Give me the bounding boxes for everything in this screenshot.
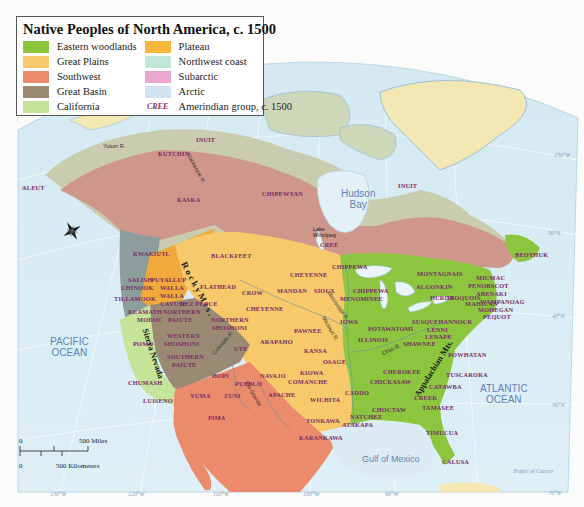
tribe-label: KWAKIUTL [133,250,170,257]
tribe-label: PUYALLUP [151,276,186,283]
tribe-label: CHEROKEE [383,368,421,375]
legend-item-northwest-coast: Northwest coast [145,55,292,68]
tribe-label: PUEBLO [235,380,262,387]
coordinate-label: Tropic of Cancer [513,468,554,474]
scale-miles-label: 500 Miles [79,437,107,445]
coordinate-label: 120°W [128,491,144,497]
tribe-label: NORTHERN [163,308,201,315]
tribe-label: WAMPANOAG [480,298,525,305]
tribe-label: WALLA [160,292,184,299]
tribe-label: POWHATAN [448,351,486,358]
coordinate-label: 40°N [552,313,564,319]
coordinate-label: 100°W [303,491,319,497]
tribe-label: CROW [242,289,263,296]
tribe-label: NATCHEZ [350,413,382,420]
tribe-label: KASKA [177,196,200,203]
tribe-label: KANSA [304,347,327,354]
tribe-label: INUIT [398,182,417,189]
tribe-label: WESTERN [167,332,200,339]
tribe-label: BEOTHUK [515,251,548,258]
tribe-label: PIMA [208,414,226,421]
tribe-label: SOUTHERN [167,353,204,360]
legend-swatch [23,71,49,83]
tribe-label: PAIUTE [172,361,197,368]
tribe-label: SHOSHONI [164,340,199,347]
legend-swatch [23,86,49,98]
legend-label: Arctic [179,86,205,97]
legend-swatch [145,71,171,83]
tribe-label: HOPI [212,372,229,379]
legend-label: Plateau [179,41,210,52]
legend-label: Great Basin [57,86,107,97]
tribe-label: ATAKAPA [342,421,373,428]
scale-zero-miles: 0 [19,437,23,445]
tribe-label: POTAWATOMI [368,325,413,332]
legend-label: Eastern woodlands [57,41,137,52]
legend-item-subarctic: Subarctic [145,70,292,83]
coordinate-label: 90°W [385,491,398,497]
tribe-label: CHIPPEWA [332,263,368,270]
tribe-label: CHOCTAW [372,406,406,413]
legend-item-southwest: Southwest [23,70,137,83]
tribe-label: CHUMASH [128,379,162,386]
scale-km-label: 500 Kilometers [56,462,99,470]
gulf-of-mexico-label: Gulf of Mexico [362,454,420,465]
coordinate-label: 110°W [213,491,229,497]
tribe-label: CHIPPEWA [353,287,389,294]
tribe-label: KLAMATH [128,308,162,315]
tribe-label: CHEYENNE [246,305,283,312]
legend-item-plateau: Plateau [145,40,292,53]
coordinate-label: 30°N [552,402,564,408]
legend-swatch [23,101,49,113]
legend-item-amerindian-group: CREEAmerindian group, c. 1500 [145,100,292,113]
legend-swatch [145,41,171,53]
legend-label: Great Plains [57,56,109,67]
tribe-label: COMANCHE [288,378,328,385]
tribe-label: MENOMINEE [340,295,383,302]
coordinate-label: 70°W [548,490,561,496]
legend-item-great-basin: Great Basin [23,85,137,98]
tribe-label: CHINOOK [121,284,154,291]
legend-label: California [57,101,100,112]
tribe-label: PENOBSCOT [468,282,509,289]
legend-swatch [145,86,171,98]
tribe-label: TUSCARORA [446,371,488,378]
tribe-label: ILLINOIS [358,336,388,343]
hudson-bay-label: Hudson Bay [341,188,375,210]
tribe-label: MICMAC [476,274,505,281]
tribe-label: MONTAGNAIS [417,270,463,277]
legend-label: Northwest coast [179,56,247,67]
tribe-label: NEZ PERCE [180,300,218,307]
map-legend: Native Peoples of North America, c. 1500… [16,16,264,116]
tribe-label: ALGONKIN [416,283,453,290]
tribe-label: PAIUTE [168,316,193,323]
tribe-label: BLACKFEET [211,252,252,259]
tribe-label: UTE [234,345,248,352]
legend-label: Subarctic [179,71,219,82]
tribe-label: TONKAWA [306,417,340,424]
tribe-label: KIOWA [300,369,323,376]
tribe-label: ALEUT [22,184,45,191]
tribe-label: KUTCHIN [158,150,190,157]
legend-grid: Eastern woodlands Plateau Great Plains N… [23,40,257,113]
tribe-label: FLATHEAD [200,283,236,290]
coordinate-label: 130°W [50,491,66,497]
map-canvas: Native Peoples of North America, c. 1500… [0,0,584,507]
tribe-label: CATAWBA [429,383,462,390]
tribe-label: TAMASEE [422,404,454,411]
tribe-label: APACHE [268,391,295,398]
tribe-label: ARAPAHO [260,338,293,345]
legend-item-california: California [23,100,137,113]
tribe-label: POMO [133,340,153,347]
tribe-label: CHIPEWYAN [262,190,303,197]
tribe-label: LUISENO [143,397,173,404]
tribe-label: SHOSHONI [212,324,247,331]
legend-group-sample: CREE [145,102,171,111]
tribe-label: NORTHERN [211,316,249,323]
lake-winnipeg-label: Lake Winnipeg [313,226,336,238]
tribe-label: SUSQUEHANNOCK [412,318,473,325]
tribe-label: NAVAJO [260,372,286,379]
legend-item-eastern-woodlands: Eastern woodlands [23,40,137,53]
tribe-label: LENNI [427,326,448,333]
tribe-label: PEQUOT [483,313,511,320]
